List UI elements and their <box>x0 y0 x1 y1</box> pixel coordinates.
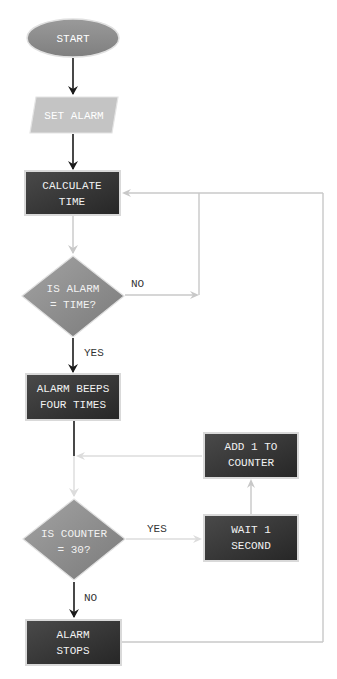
is-counter-30-line1: IS COUNTER <box>41 528 107 540</box>
start-terminal: START <box>27 19 119 57</box>
calculate-time-line2: TIME <box>59 196 86 208</box>
wait-second-line1: WAIT 1 <box>231 524 271 536</box>
alarm-stops-process: ALARM STOPS <box>26 620 121 665</box>
alarm-beeps-line2: FOUR TIMES <box>40 399 106 411</box>
start-label: START <box>56 33 89 45</box>
arrow-add-counter-to-main-line <box>76 452 202 460</box>
flowchart: START SET ALARM CALCULATE TIME IS ALARM … <box>0 0 337 679</box>
wait-second-line2: SECOND <box>231 540 271 552</box>
is-alarm-time-decision: IS ALARM = TIME? <box>22 256 124 337</box>
calculate-time-process: CALCULATE TIME <box>25 171 120 215</box>
is-alarm-time-line1: IS ALARM <box>47 283 100 295</box>
arrow-calculate-to-decision <box>68 216 78 254</box>
alarm-no-label: NO <box>131 278 145 290</box>
is-alarm-time-line2: = TIME? <box>50 299 96 311</box>
loop-alarm-stops-to-calculate <box>122 193 323 642</box>
counter-no-label: NO <box>84 592 98 604</box>
alarm-stops-line2: STOPS <box>56 645 89 657</box>
alarm-yes-label: YES <box>84 347 104 359</box>
counter-yes-label: YES <box>147 523 167 535</box>
add-counter-line2: COUNTER <box>228 457 275 469</box>
arrow-set-alarm-to-calculate <box>68 134 78 170</box>
is-counter-30-line2: = 30? <box>57 544 90 556</box>
set-alarm-label: SET ALARM <box>44 110 103 122</box>
arrow-alarm-beeps-to-counter-decision <box>69 421 79 497</box>
calculate-time-line1: CALCULATE <box>42 180 102 192</box>
alarm-stops-line1: ALARM <box>56 629 89 641</box>
wait-second-process: WAIT 1 SECOND <box>204 515 298 561</box>
alarm-beeps-process: ALARM BEEPS FOUR TIMES <box>26 374 120 420</box>
set-alarm-io: SET ALARM <box>30 97 118 133</box>
arrow-yes-to-alarm-beeps <box>68 338 78 373</box>
add-counter-line1: ADD 1 TO <box>225 441 278 453</box>
add-counter-process: ADD 1 TO COUNTER <box>204 433 298 478</box>
arrow-wait-to-add-counter <box>247 479 255 514</box>
arrow-yes-to-wait <box>126 535 202 543</box>
arrow-no-loop-back-to-calculate <box>122 189 323 299</box>
alarm-beeps-line1: ALARM BEEPS <box>37 383 110 395</box>
arrow-start-to-set-alarm <box>68 58 78 95</box>
is-counter-30-decision: IS COUNTER = 30? <box>23 499 125 580</box>
arrow-no-to-alarm-stops <box>69 582 79 618</box>
